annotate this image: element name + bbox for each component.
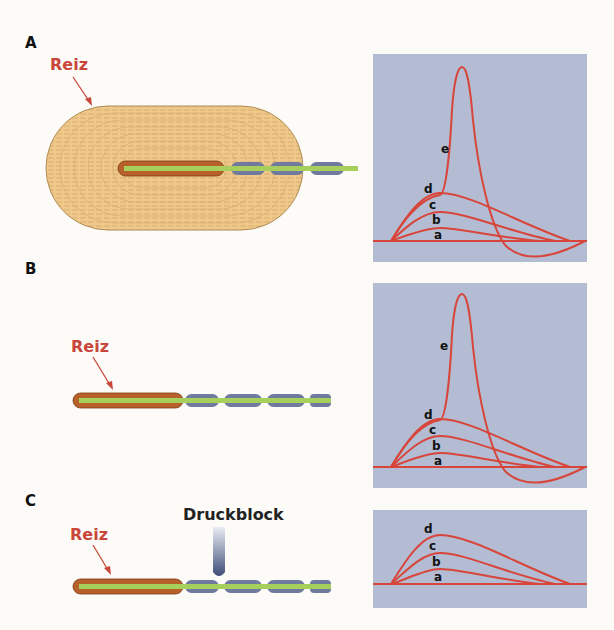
stimulus-label-b: Reiz	[71, 337, 109, 356]
curve-label-d: d	[424, 408, 433, 422]
pressure-block-label: Druckblock	[183, 505, 284, 524]
panel-letter-b: B	[25, 260, 36, 278]
curve-label-e: e	[441, 142, 449, 156]
panel-b: B Reiz e d c b a	[25, 260, 587, 488]
panel-letter-a: A	[25, 34, 37, 52]
panel-a: A Reiz	[25, 34, 587, 262]
nerve-fiber-b	[73, 393, 331, 408]
curve-label-a: a	[434, 228, 442, 242]
nerve-fiber-a	[118, 161, 358, 176]
curve-label-e: e	[440, 339, 448, 353]
panel-letter-c: C	[25, 492, 36, 510]
pressure-probe	[213, 527, 225, 576]
receptor-potential-diagram: A Reiz	[0, 0, 614, 630]
potential-plot-a: e d c b a	[373, 54, 587, 262]
curve-label-d: d	[424, 182, 433, 196]
panel-c: C Druckblock Reiz d c b a	[25, 492, 587, 608]
curve-label-b: b	[432, 213, 441, 227]
curve-label-a: a	[434, 454, 442, 468]
curve-label-b: b	[432, 555, 441, 569]
potential-plot-b: e d c b a	[373, 283, 587, 488]
curve-label-c: c	[429, 198, 436, 212]
axon-b	[79, 398, 331, 403]
nerve-fiber-c	[73, 579, 331, 594]
curve-label-a: a	[434, 570, 442, 584]
curve-label-d: d	[424, 522, 433, 536]
curve-label-c: c	[429, 539, 436, 553]
stimulus-arrow-a	[73, 77, 92, 106]
curve-label-c: c	[429, 423, 436, 437]
stimulus-arrow-b	[93, 357, 113, 390]
stimulus-label-a: Reiz	[50, 55, 88, 74]
stimulus-label-c: Reiz	[70, 525, 108, 544]
stimulus-arrow-c	[93, 545, 111, 575]
potential-plot-c: d c b a	[373, 510, 587, 608]
axon-c	[79, 584, 331, 589]
curve-label-b: b	[432, 439, 441, 453]
axon-a	[124, 166, 358, 171]
